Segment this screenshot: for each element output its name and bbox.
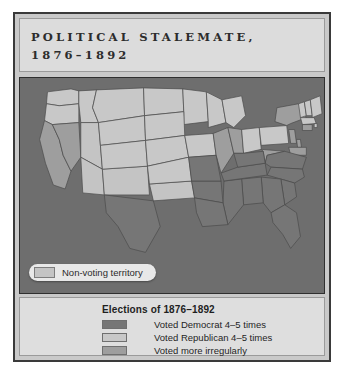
state-nj: [289, 130, 297, 144]
legend-swatch: [102, 320, 127, 329]
state-wi: [206, 92, 226, 128]
legend-panel: Elections of 1876–1892 Voted Democrat 4–…: [19, 297, 325, 356]
state-nm: [102, 166, 149, 195]
state-fl: [271, 205, 300, 249]
united-states-map: [20, 78, 324, 293]
state-co: [100, 140, 147, 169]
legend-swatch: [102, 346, 127, 355]
legend-rows: Voted Democrat 4–5 timesVoted Republican…: [102, 319, 272, 356]
legend-item: Voted Republican 4–5 times: [102, 332, 272, 343]
state-me: [310, 96, 322, 118]
state-or: [45, 104, 79, 125]
non-voting-label: Non-voting territory: [62, 267, 143, 278]
state-pa: [259, 126, 288, 146]
legend-swatch: [102, 333, 127, 342]
state-ma: [300, 118, 316, 125]
state-al: [242, 177, 264, 205]
non-voting-territory-legend: Non-voting territory: [29, 264, 156, 281]
state-ok: [149, 181, 194, 201]
state-ct: [302, 125, 312, 131]
figure-container: POLITICAL STALEMATE, 1876–1892 Non-votin…: [13, 12, 331, 362]
page-title: POLITICAL STALEMATE, 1876–1892: [31, 28, 318, 64]
state-nd: [144, 88, 184, 116]
state-mn: [183, 89, 208, 125]
legend-item: Voted more irregularly: [102, 345, 272, 356]
legend-item: Voted Democrat 4–5 times: [102, 319, 272, 330]
legend-label: Voted Democrat 4–5 times: [154, 319, 266, 330]
title-panel: POLITICAL STALEMATE, 1876–1892: [19, 18, 325, 72]
state-oh: [242, 128, 262, 154]
non-voting-swatch: [34, 267, 55, 278]
state-tx: [104, 195, 160, 252]
legend-label: Voted Republican 4–5 times: [154, 332, 272, 343]
map-panel: Non-voting territory: [19, 77, 325, 294]
state-mo: [189, 155, 221, 181]
state-ri: [314, 124, 317, 128]
state-wa: [46, 89, 78, 106]
state-ia: [185, 133, 216, 157]
legend-heading: Elections of 1876–1892: [102, 304, 272, 315]
legend-label: Voted more irregularly: [154, 345, 247, 356]
state-de: [297, 139, 302, 147]
